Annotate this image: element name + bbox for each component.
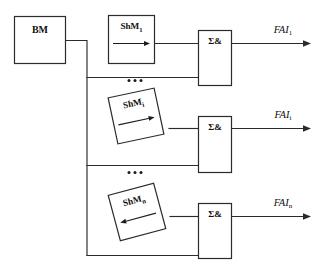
output-arrow-1 bbox=[232, 40, 312, 46]
combiner-block-2[interactable]: Σ& bbox=[199, 117, 232, 173]
output-label-1-subscript: 1 bbox=[289, 29, 293, 37]
bus-trunk-wire bbox=[66, 41, 88, 256]
ellipsis-lower bbox=[128, 171, 143, 174]
block-diagram-canvas: BM ShM1 Σ& FAI1 bbox=[0, 0, 321, 269]
channel-1: ShM1 Σ& FAI1 bbox=[109, 16, 312, 86]
bm-label: BM bbox=[32, 24, 49, 35]
block-diagram: BM ShM1 Σ& FAI1 bbox=[0, 0, 321, 269]
output-label-3-base: FAI bbox=[273, 197, 289, 208]
output-label-2-subscript: i bbox=[290, 114, 292, 122]
processor-block-1[interactable]: ShM1 bbox=[109, 16, 155, 64]
shm1-label: ShM1 bbox=[120, 21, 142, 32]
combiner-block-3[interactable]: Σ& bbox=[199, 204, 232, 259]
output-arrow-2 bbox=[232, 125, 312, 131]
output-label-3: FAIn bbox=[273, 197, 293, 210]
processor-block-3[interactable]: ShMn bbox=[108, 183, 166, 241]
processor-block-2[interactable]: ShMi bbox=[108, 88, 164, 144]
source-block-bm[interactable]: BM bbox=[15, 17, 66, 64]
output-label-1-base: FAI bbox=[273, 24, 289, 35]
sigman-label: Σ& bbox=[208, 209, 222, 219]
combiner-block-1[interactable]: Σ& bbox=[199, 31, 232, 86]
output-label-3-subscript: n bbox=[289, 202, 293, 210]
ellipsis-upper bbox=[128, 79, 143, 82]
shm1-label-subscript: 1 bbox=[139, 25, 142, 32]
shmi-box bbox=[108, 88, 164, 144]
sigmai-label: Σ& bbox=[208, 122, 222, 132]
output-label-2-base: FAI bbox=[274, 109, 290, 120]
shm1-label-base: ShM bbox=[120, 21, 139, 31]
channel-2: ShMi Σ& FAIi bbox=[108, 88, 311, 172]
sigma1-label: Σ& bbox=[208, 36, 222, 46]
shmn-box bbox=[108, 183, 166, 241]
output-label-2: FAIi bbox=[274, 109, 292, 122]
output-label-1: FAI1 bbox=[273, 24, 293, 37]
channel-3: ShMn Σ& FAIn bbox=[108, 183, 311, 258]
output-arrow-3 bbox=[232, 213, 312, 219]
